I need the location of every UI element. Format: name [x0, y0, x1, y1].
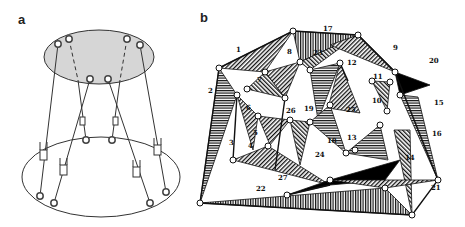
- label-20: 20: [429, 56, 439, 65]
- tensegrity-diagram: 1 2 3 4 5 6 7 8 9 10 11 12 13 14 15 16 1…: [195, 0, 465, 227]
- label-8: 8: [287, 47, 292, 56]
- label-10: 10: [372, 96, 382, 105]
- label-26: 26: [286, 106, 296, 115]
- label-7: 7: [257, 75, 262, 84]
- label-3: 3: [229, 138, 234, 147]
- label-17: 17: [323, 24, 333, 33]
- label-4: 4: [248, 141, 253, 150]
- label-24: 24: [315, 150, 325, 159]
- label-18: 18: [327, 136, 337, 145]
- top-plate: [44, 30, 154, 84]
- panel-b-tensegrity-structure: b: [195, 0, 465, 227]
- label-25: 25: [346, 105, 356, 114]
- label-14: 14: [405, 153, 415, 162]
- label-19: 19: [304, 104, 314, 113]
- label-21: 21: [431, 183, 441, 192]
- label-2: 2: [208, 86, 213, 95]
- label-13: 13: [347, 133, 357, 142]
- label-9: 9: [393, 43, 398, 52]
- label-11: 11: [373, 72, 383, 81]
- label-1: 1: [236, 45, 241, 54]
- label-22: 22: [256, 184, 266, 193]
- actuator-joints: [40, 117, 161, 177]
- panel-a-stewart-platform: a: [0, 0, 200, 227]
- stewart-platform-diagram: [0, 0, 200, 227]
- label-12: 12: [347, 58, 357, 67]
- label-15: 15: [434, 98, 444, 107]
- label-27: 27: [278, 173, 288, 182]
- label-6: 6: [246, 103, 251, 112]
- label-16: 16: [432, 129, 442, 138]
- label-5: 5: [253, 128, 258, 137]
- label-23: 23: [313, 48, 323, 57]
